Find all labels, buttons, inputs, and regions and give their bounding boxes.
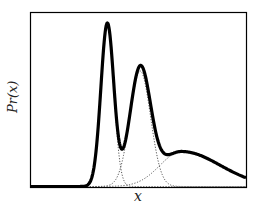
x-axis-label: x (128, 188, 148, 204)
component-2-curve (31, 71, 246, 186)
y-axis-label: Pr(x) (5, 83, 29, 113)
component-3-curve (31, 152, 246, 187)
mixture-density-chart (0, 0, 259, 210)
mixture-curve (31, 23, 246, 187)
